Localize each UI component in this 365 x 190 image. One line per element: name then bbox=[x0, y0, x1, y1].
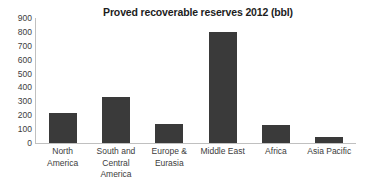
x-tick-label-line: Africa bbox=[249, 146, 302, 158]
x-tick-label-line: Middle East bbox=[196, 146, 249, 158]
y-tick-label: 800 bbox=[2, 28, 32, 37]
bar-slot bbox=[143, 18, 196, 143]
x-axis-line bbox=[35, 143, 356, 144]
bar-slot bbox=[89, 18, 142, 143]
bar bbox=[209, 32, 237, 143]
y-tick-label: 300 bbox=[2, 97, 32, 106]
chart-title: Proved recoverable reserves 2012 (bbl) bbox=[36, 6, 360, 18]
x-tick-label-line: Eurasia bbox=[143, 158, 196, 170]
x-tick-label-line: Europe & bbox=[143, 146, 196, 158]
x-tick-label: Europe &Eurasia bbox=[143, 146, 196, 169]
x-tick-label-line: North bbox=[36, 146, 89, 158]
x-tick-label: Africa bbox=[249, 146, 302, 158]
bar-chart: Proved recoverable reserves 2012 (bbl) 9… bbox=[0, 0, 365, 190]
bar-slot bbox=[303, 18, 356, 143]
bar bbox=[102, 97, 130, 143]
bar bbox=[49, 113, 77, 143]
x-tick-label-line: America bbox=[36, 158, 89, 170]
plot-area bbox=[36, 18, 356, 143]
bar bbox=[155, 124, 183, 143]
x-tick-label-line: Central bbox=[89, 158, 142, 170]
y-tick-label: 500 bbox=[2, 69, 32, 78]
y-tick-label: 100 bbox=[2, 125, 32, 134]
x-tick-label: South andCentralAmerica bbox=[89, 146, 142, 181]
x-tick-label: Middle East bbox=[196, 146, 249, 158]
y-tick-label: 400 bbox=[2, 83, 32, 92]
y-axis-tick-labels: 9008007006005004003002001000 bbox=[0, 0, 32, 190]
bar-slot bbox=[249, 18, 302, 143]
y-tick-label: 600 bbox=[2, 55, 32, 64]
bar-slot bbox=[36, 18, 89, 143]
y-tick-label: 200 bbox=[2, 111, 32, 120]
x-tick-label: Asia Pacific bbox=[303, 146, 356, 158]
x-axis-tick-labels: NorthAmericaSouth andCentralAmericaEurop… bbox=[36, 146, 356, 190]
y-tick-label: 0 bbox=[2, 139, 32, 148]
x-tick-label-line: Asia Pacific bbox=[303, 146, 356, 158]
bar bbox=[262, 125, 290, 143]
x-tick-label-line: South and bbox=[89, 146, 142, 158]
bar bbox=[315, 137, 343, 143]
y-tick-label: 900 bbox=[2, 14, 32, 23]
x-tick-label: NorthAmerica bbox=[36, 146, 89, 169]
y-tick-label: 700 bbox=[2, 42, 32, 51]
bar-slot bbox=[196, 18, 249, 143]
x-tick-label-line: America bbox=[89, 169, 142, 181]
